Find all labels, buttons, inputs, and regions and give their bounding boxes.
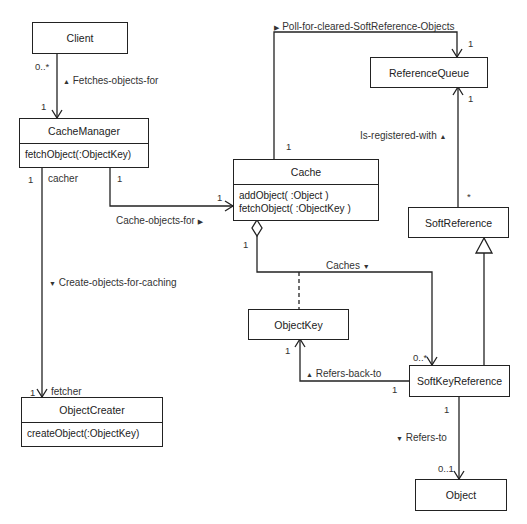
class-soft-reference[interactable]: SoftReference [408, 207, 509, 238]
multiplicity: 1 [117, 174, 122, 184]
class-name: SoftReference [409, 217, 508, 228]
operation: createObject(:ObjectKey) [27, 427, 157, 440]
poll-label: ▶ Poll-for-cleared-SoftReference-Objects [274, 22, 454, 32]
class-reference-queue[interactable]: ReferenceQueue [370, 57, 488, 88]
multiplicity: 1 [30, 388, 35, 398]
direction-right-icon: ▶ [198, 218, 203, 225]
cache-objects-association-line [110, 167, 233, 206]
multiplicity: 1 [243, 240, 248, 250]
class-name: SoftKeyReference [410, 376, 509, 387]
role-name: fetcher [51, 387, 82, 397]
class-name: Client [33, 33, 127, 44]
generalization-triangle-icon [476, 238, 492, 253]
class-name: CacheManager [20, 119, 148, 144]
refers-back-label: ▲ Refers-back-to [306, 369, 381, 379]
aggregation-diamond-icon [252, 220, 262, 236]
multiplicity: 0..1 [438, 464, 454, 474]
class-name: ObjectKey [249, 319, 348, 330]
multiplicity: 1 [468, 94, 473, 104]
multiplicity: 1 [285, 346, 290, 356]
direction-down-icon: ▼ [49, 280, 56, 287]
multiplicity: * [467, 192, 471, 202]
multiplicity: 1 [217, 193, 222, 203]
class-cache-manager[interactable]: CacheManager fetchObject(:ObjectKey) [19, 118, 149, 168]
direction-up-icon: ▲ [63, 78, 70, 85]
fetches-label: ▲ Fetches-objects-for [63, 76, 158, 86]
direction-up-icon: ▲ [306, 371, 313, 378]
direction-down-icon: ▼ [396, 435, 403, 442]
class-object-creater[interactable]: ObjectCreater createObject(:ObjectKey) [21, 397, 163, 447]
caches-association-line [257, 236, 432, 365]
multiplicity: 1 [286, 142, 291, 152]
class-name: ObjectCreater [22, 398, 162, 423]
direction-down-icon: ▼ [363, 263, 370, 270]
multiplicity: 1 [41, 102, 46, 112]
class-name: Object [416, 490, 506, 501]
operation: addObject( :Object ) [239, 189, 373, 202]
operation: fetchObject(:ObjectKey) [25, 148, 143, 161]
multiplicity: 1 [392, 385, 397, 395]
class-object[interactable]: Object [415, 479, 507, 511]
cache-objects-label: Cache-objects-for ▶ [116, 216, 203, 226]
class-client[interactable]: Client [32, 22, 128, 54]
class-cache[interactable]: Cache addObject( :Object ) fetchObject( … [233, 159, 379, 221]
class-name: Cache [234, 160, 378, 185]
direction-up-icon: ▲ [439, 133, 446, 140]
multiplicity: 1 [444, 405, 449, 415]
class-name: ReferenceQueue [371, 67, 487, 78]
create-objects-label: ▼ Create-objects-for-caching [49, 278, 177, 288]
registered-label: Is-registered-with ▲ [360, 131, 446, 141]
class-object-key[interactable]: ObjectKey [248, 309, 349, 340]
multiplicity: 1 [28, 175, 33, 185]
direction-right-icon: ▶ [274, 24, 279, 31]
multiplicity: 1 [468, 39, 473, 49]
multiplicity: 0..* [413, 353, 427, 363]
multiplicity: 0..* [35, 62, 49, 72]
caches-label: Caches ▼ [326, 261, 370, 271]
operation: fetchObject( :ObjectKey ) [239, 202, 373, 215]
role-name: cacher [48, 174, 78, 184]
class-soft-key-reference[interactable]: SoftKeyReference [409, 365, 510, 397]
refers-to-label: ▼ Refers-to [396, 433, 447, 443]
